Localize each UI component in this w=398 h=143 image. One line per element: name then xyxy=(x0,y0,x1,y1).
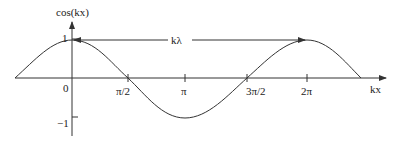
x-tick-label-pi-half: π/2 xyxy=(116,86,130,97)
cosine-curve xyxy=(15,40,361,118)
x-tick-label-3pi-half: 3π/2 xyxy=(246,86,266,97)
y-tick-label-minus-1: −1 xyxy=(57,118,69,129)
y-axis-label: cos(kx) xyxy=(56,7,89,18)
y-tick-label-1: 1 xyxy=(62,33,68,44)
x-tick-label-2pi: 2π xyxy=(301,86,312,97)
x-tick-label-pi: π xyxy=(181,86,187,97)
x-axis-label: kx xyxy=(370,84,381,95)
x-tick-label-0: 0 xyxy=(63,83,69,94)
wavelength-label: kλ xyxy=(171,35,182,46)
